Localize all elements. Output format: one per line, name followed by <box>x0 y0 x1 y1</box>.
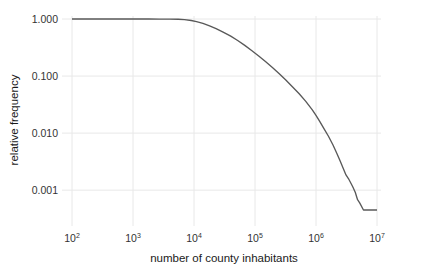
x-axis-tick-label: 104 <box>186 232 202 245</box>
x-axis-tick-label: 106 <box>308 232 324 245</box>
y-axis-tick-label: 0.001 <box>32 184 58 196</box>
chart-canvas: 102103104105106107 1.0000.1000.0100.001 … <box>0 0 423 272</box>
x-axis-tick-label: 107 <box>369 232 385 245</box>
x-axis-tick-label: 103 <box>125 232 141 245</box>
y-axis-tick-label: 0.010 <box>32 127 58 139</box>
x-axis-tick-label: 102 <box>64 232 80 245</box>
y-axis-tick-label: 0.100 <box>32 70 58 82</box>
x-axis-tick-label: 105 <box>247 232 263 245</box>
x-axis-title: number of county inhabitants <box>150 252 298 264</box>
y-axis-tick-labels: 1.0000.1000.0100.001 <box>32 13 58 196</box>
x-axis-tick-labels: 102103104105106107 <box>64 232 385 245</box>
chart-figure: 102103104105106107 1.0000.1000.0100.001 … <box>0 0 423 272</box>
y-axis-tick-label: 1.000 <box>32 13 58 25</box>
data-line-group <box>72 19 377 210</box>
grid-lines <box>62 16 381 226</box>
y-axis-title: relative frequency <box>8 74 20 165</box>
data-line-series-0 <box>72 19 377 210</box>
